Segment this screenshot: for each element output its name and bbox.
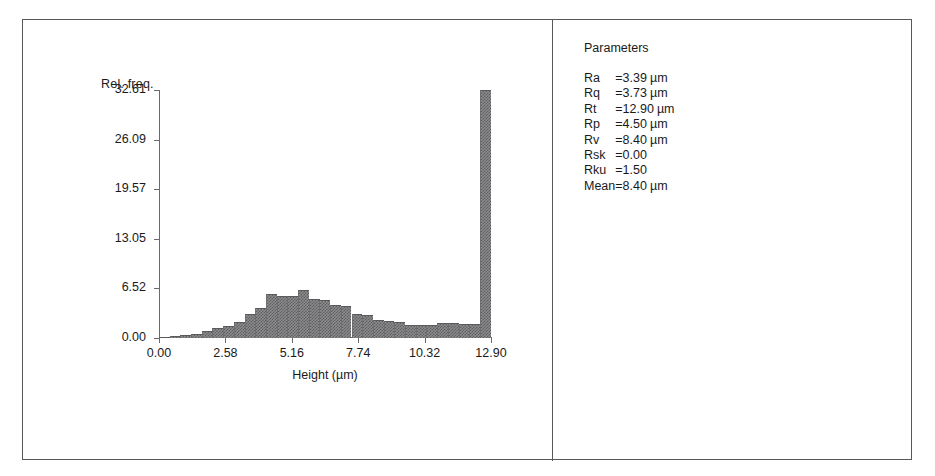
parameter-equals: = [615,117,622,132]
histogram-panel: Rel. freq. 0.006.5213.0519.5726.0932.61 … [23,20,552,461]
parameter-name: Rt [584,102,615,117]
y-axis-line [159,90,160,338]
histogram-bar [159,337,170,338]
histogram-bar [459,324,470,338]
x-tick [225,338,226,343]
histogram-bar [234,322,245,338]
parameter-unit: µm [657,102,675,116]
parameter-unit: µm [650,86,668,100]
histogram-bar [405,325,416,338]
parameter-row: Rku=1.50 [584,163,675,178]
x-tick-label: 10.32 [409,346,440,360]
histogram-bar [426,325,437,338]
y-tick-label: 6.52 [122,280,146,294]
y-tick-label: 26.09 [115,132,146,146]
parameter-value: 3.73µm [623,86,675,101]
parameter-equals: = [615,71,622,86]
histogram-bar [384,321,395,338]
parameter-equals: = [615,163,622,178]
histogram-bar [223,326,234,338]
parameter-name: Ra [584,71,615,86]
histogram-bar [277,296,288,338]
parameter-unit: µm [650,179,668,193]
histogram-bar [373,320,384,338]
y-tick: 32.61 [154,90,159,91]
histogram-bar [394,322,405,338]
x-tick-label: 7.74 [346,346,370,360]
parameter-name: Rp [584,117,615,132]
parameter-equals: = [615,179,622,194]
parameters-title: Parameters [584,41,649,55]
histogram-bar [480,90,491,338]
parameter-name: Rku [584,163,615,178]
y-tick: 19.57 [154,189,159,190]
x-axis-label: Height (µm) [159,368,491,382]
parameter-equals: = [615,102,622,117]
y-tick-label: 13.05 [115,231,146,245]
histogram-bar [191,334,202,338]
parameter-row: Rq=3.73µm [584,86,675,101]
parameter-row: Rp=4.50µm [584,117,675,132]
y-tick: 13.05 [154,239,159,240]
parameter-name: Rv [584,133,615,148]
histogram-bar [170,336,181,338]
y-tick: 26.09 [154,140,159,141]
x-tick [491,338,492,343]
histogram-bar [437,323,448,338]
histogram-bar [266,294,277,338]
histogram-bar [298,290,309,338]
parameter-unit: µm [650,133,668,147]
x-tick-label: 5.16 [280,346,304,360]
parameter-name: Mean [584,179,615,194]
parameter-name: Rq [584,86,615,101]
y-tick-label: 19.57 [115,181,146,195]
histogram-bar [362,315,373,338]
x-tick [425,338,426,343]
x-tick-label: 0.00 [147,346,171,360]
histogram-bar [448,323,459,338]
figure-frame: Rel. freq. 0.006.5213.0519.5726.0932.61 … [22,19,912,460]
histogram-bar [330,305,341,338]
histogram-bar [245,314,256,338]
parameter-unit: µm [650,71,668,85]
x-tick [358,338,359,343]
histogram-bar [202,331,213,338]
parameter-unit: µm [650,117,668,131]
plot-area: 0.006.5213.0519.5726.0932.61 0.002.585.1… [159,90,491,338]
parameter-value: 8.40µm [623,179,675,194]
parameters-panel: Parameters Ra=3.39µmRq=3.73µmRt=12.90µmR… [553,20,913,461]
parameter-value: 0.00 [623,148,675,163]
parameter-equals: = [615,86,622,101]
surface-roughness-figure: Rel. freq. 0.006.5213.0519.5726.0932.61 … [0,0,935,476]
histogram-bar [180,335,191,338]
histogram-bar [255,308,266,338]
x-tick-label: 2.58 [213,346,237,360]
parameter-value: 3.39µm [623,71,675,86]
histogram-bar [287,296,298,338]
histogram-bar [212,328,223,338]
histogram-bar [309,299,320,338]
parameter-row: Rsk=0.00 [584,148,675,163]
histogram-bar [352,314,363,338]
histogram-bar [416,325,427,338]
parameter-row: Rt=12.90µm [584,102,675,117]
parameter-value: 4.50µm [623,117,675,132]
parameter-row: Mean=8.40µm [584,179,675,194]
parameter-row: Rv=8.40µm [584,133,675,148]
x-tick [292,338,293,343]
histogram-bar [319,300,330,338]
parameter-equals: = [615,133,622,148]
histogram-bar [469,324,480,338]
parameter-name: Rsk [584,148,615,163]
parameter-row: Ra=3.39µm [584,71,675,86]
x-tick-label: 12.90 [475,346,506,360]
histogram-bar [341,306,352,338]
parameter-value: 8.40µm [623,133,675,148]
parameters-table: Ra=3.39µmRq=3.73µmRt=12.90µmRp=4.50µmRv=… [584,71,675,194]
y-tick-label: 0.00 [122,330,146,344]
x-tick [159,338,160,343]
parameter-equals: = [615,148,622,163]
y-tick-label: 32.61 [115,82,146,96]
parameter-value: 1.50 [623,163,675,178]
y-tick: 6.52 [154,288,159,289]
